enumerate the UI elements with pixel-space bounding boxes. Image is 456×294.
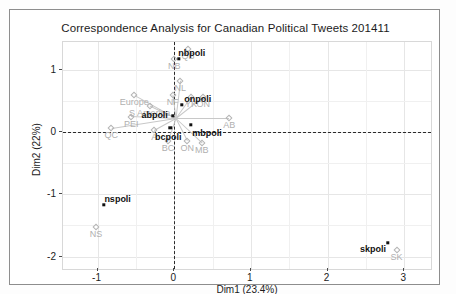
x-tick-label: -1 xyxy=(92,272,101,283)
gridline-horizontal xyxy=(63,257,431,258)
row-point-label: QC xyxy=(105,130,119,140)
row-point-label: NB xyxy=(168,61,181,71)
row-point-label: SK xyxy=(390,252,402,262)
row-point-label: NF xyxy=(167,97,179,107)
y-tick-mark xyxy=(59,131,62,132)
y-tick-mark xyxy=(59,193,62,194)
gridline-horizontal-minor xyxy=(63,101,431,102)
y-tick-mark xyxy=(59,69,62,70)
column-point-marker xyxy=(171,114,174,117)
screenshot-root: Correspondence Analysis for Canadian Pol… xyxy=(0,0,456,294)
column-point-label: nbpoli xyxy=(178,48,205,58)
gridline-vertical-minor xyxy=(289,42,290,269)
column-point-label: abpoli xyxy=(141,110,168,120)
x-tick-mark xyxy=(97,268,98,271)
gridline-horizontal-minor xyxy=(63,225,431,226)
row-point-label: NL xyxy=(175,83,187,93)
gridline-vertical-minor xyxy=(136,42,137,269)
y-tick-label: 1 xyxy=(36,63,56,74)
y-tick-mark xyxy=(59,256,62,257)
row-point-label: Europe xyxy=(120,97,149,107)
x-tick-mark xyxy=(403,268,404,271)
x-tick-mark xyxy=(250,268,251,271)
gridline-horizontal-minor xyxy=(63,163,431,164)
x-tick-label: 0 xyxy=(170,272,176,283)
gridline-vertical xyxy=(251,42,252,269)
column-point-label: mbpoli xyxy=(192,128,222,138)
gridline-vertical-minor xyxy=(366,42,367,269)
plot-panel: QBNBNLNFYKONEuropeS AmericaPEIABQCABCONM… xyxy=(62,41,432,270)
connector-line xyxy=(176,118,230,119)
zero-axis-vertical xyxy=(174,42,175,269)
column-point-marker xyxy=(386,241,389,244)
gridline-horizontal xyxy=(63,70,431,71)
chart-title: Correspondence Analysis for Canadian Pol… xyxy=(10,22,441,34)
x-axis-label: Dim1 (23.4%) xyxy=(62,284,432,294)
y-tick-label: -2 xyxy=(36,250,56,261)
row-point-label: BC xyxy=(162,143,175,153)
y-tick-label: 0 xyxy=(36,126,56,137)
column-point-marker xyxy=(180,103,183,106)
column-point-label: nspoli xyxy=(104,194,131,204)
gridline-vertical-minor xyxy=(213,42,214,269)
gridline-vertical xyxy=(404,42,405,269)
row-point-label: PEI xyxy=(124,119,139,129)
column-point-marker xyxy=(189,123,192,126)
column-point-label: skpoli xyxy=(360,244,386,254)
column-point-label: bcpoli xyxy=(155,132,182,142)
gridline-vertical xyxy=(328,42,329,269)
row-point-label: ON xyxy=(180,143,194,153)
column-point-label: onpoli xyxy=(184,94,211,104)
row-point-label: NS xyxy=(90,229,103,239)
row-point-label: MB xyxy=(195,145,209,155)
x-tick-mark xyxy=(327,268,328,271)
x-tick-mark xyxy=(173,268,174,271)
y-tick-label: -1 xyxy=(36,188,56,199)
row-point-label: AB xyxy=(223,120,235,130)
x-tick-label: 2 xyxy=(324,272,330,283)
column-point-marker xyxy=(169,126,172,129)
figure-frame: Correspondence Analysis for Canadian Pol… xyxy=(9,9,440,285)
x-tick-label: 3 xyxy=(400,272,406,283)
x-tick-label: 1 xyxy=(247,272,253,283)
